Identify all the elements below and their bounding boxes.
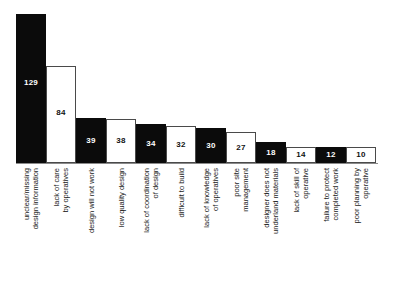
- bar-value-label: 30: [206, 142, 215, 150]
- category-label-column: unclear/missing design information: [16, 166, 46, 278]
- plot-area: 129 84 39 38 34: [16, 10, 376, 163]
- category-label-column: low quality design: [106, 166, 136, 278]
- bar-6[interactable]: 32: [166, 126, 196, 163]
- bar-column: 34: [136, 10, 166, 163]
- bar-column: 12: [316, 10, 346, 163]
- bar-value-label: 32: [176, 141, 185, 149]
- bar-value-label: 84: [56, 109, 65, 117]
- bar-11[interactable]: 12: [316, 147, 346, 163]
- bar-column: 27: [226, 10, 256, 163]
- category-axis-line: [16, 163, 378, 164]
- bar-10[interactable]: 14: [286, 147, 316, 163]
- bar-7[interactable]: 30: [196, 128, 226, 163]
- category-axis-labels: unclear/missing design information lack …: [16, 166, 376, 278]
- bar-value-label: 38: [116, 137, 125, 145]
- bar-value-label: 129: [24, 79, 38, 87]
- category-label-column: lack of care by operatives: [46, 166, 76, 278]
- bar-column: 39: [76, 10, 106, 163]
- bar-5[interactable]: 34: [136, 124, 166, 163]
- bar-8[interactable]: 27: [226, 132, 256, 163]
- bar-value-label: 14: [296, 151, 305, 159]
- bar-column: 14: [286, 10, 316, 163]
- category-label: lack of knowledge of operatives: [202, 166, 220, 278]
- category-label: difficult to build: [177, 166, 186, 278]
- category-label: low quality design: [117, 166, 126, 278]
- category-label: designer does not underland materials: [262, 166, 280, 278]
- bar-value-label: 39: [86, 137, 95, 145]
- bar-column: 32: [166, 10, 196, 163]
- bar-column: 30: [196, 10, 226, 163]
- bar-column: 129: [16, 10, 46, 163]
- bar-column: 18: [256, 10, 286, 163]
- category-label-column: lack of skill of operative: [286, 166, 316, 278]
- category-label: lack of skill of operative: [292, 166, 310, 278]
- category-label-column: lack of coordination of design: [136, 166, 166, 278]
- bar-4[interactable]: 38: [106, 119, 136, 163]
- bar-column: 10: [346, 10, 376, 163]
- category-label: failure to protect completed work: [322, 166, 340, 278]
- bar-value-label: 27: [236, 144, 245, 152]
- bar-9[interactable]: 18: [256, 142, 286, 163]
- bar-value-label: 34: [146, 140, 155, 148]
- bar-value-label: 18: [266, 149, 275, 157]
- category-label: design will not work: [87, 166, 96, 278]
- bar-value-label: 12: [326, 151, 335, 159]
- bar-chart: 129 84 39 38 34: [0, 0, 402, 281]
- bar-series: 129 84 39 38 34: [16, 10, 376, 163]
- bar-column: 84: [46, 10, 76, 163]
- bar-3[interactable]: 39: [76, 118, 106, 163]
- category-label-column: poor site management: [226, 166, 256, 278]
- category-label-column: design will not work: [76, 166, 106, 278]
- category-label: poor site management: [232, 166, 250, 278]
- bar-2[interactable]: 84: [46, 66, 76, 163]
- bar-column: 38: [106, 10, 136, 163]
- bar-12[interactable]: 10: [346, 147, 376, 163]
- category-label: lack of coordination of design: [142, 166, 160, 278]
- bar-1[interactable]: 129: [16, 14, 46, 163]
- category-label: unclear/missing design information: [22, 166, 40, 278]
- category-label: lack of care by operatives: [52, 166, 70, 278]
- bar-value-label: 10: [356, 151, 365, 159]
- category-label-column: poor planning by operative: [346, 166, 376, 278]
- category-label-column: lack of knowledge of operatives: [196, 166, 226, 278]
- category-label-column: failure to protect completed work: [316, 166, 346, 278]
- category-label-column: designer does not underland materials: [256, 166, 286, 278]
- category-label: poor planning by operative: [352, 166, 370, 278]
- category-label-column: difficult to build: [166, 166, 196, 278]
